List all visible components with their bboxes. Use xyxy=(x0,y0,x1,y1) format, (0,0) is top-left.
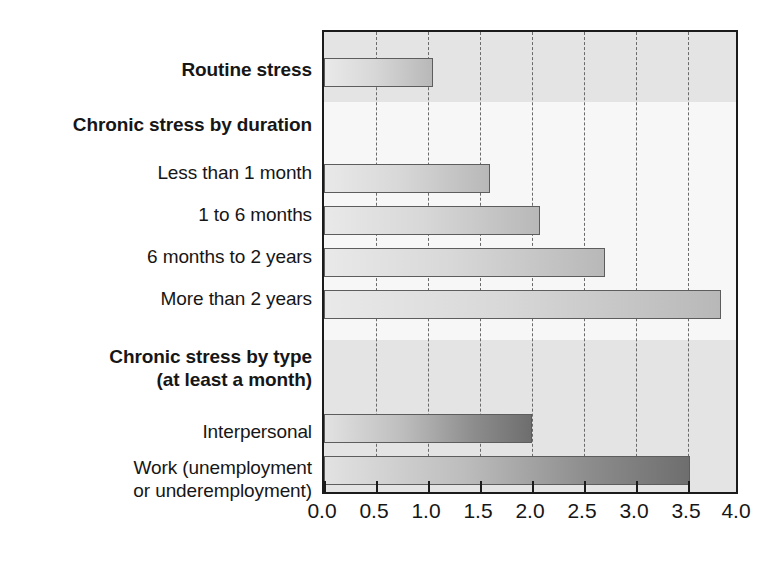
bar-routine-stress xyxy=(324,58,433,87)
xtick-label-1.5: 1.5 xyxy=(463,498,492,524)
xtick-mark-2.0 xyxy=(532,481,534,492)
xtick-label-2.5: 2.5 xyxy=(567,498,596,524)
xtick-label-0.0: 0.0 xyxy=(307,498,336,524)
xtick-label-4.0: 4.0 xyxy=(721,498,750,524)
category-label-work: Work (unemployment or underemployment) xyxy=(0,456,312,502)
category-label-interpersonal: Interpersonal xyxy=(0,420,312,443)
gridline-3.0 xyxy=(636,32,637,492)
category-label-1-to-6-months: 1 to 6 months xyxy=(0,203,312,226)
bar-less-than-1-month xyxy=(324,164,490,193)
xtick-label-0.5: 0.5 xyxy=(359,498,388,524)
xtick-label-3.5: 3.5 xyxy=(671,498,700,524)
category-label-column: Routine stress Chronic stress by duratio… xyxy=(0,0,312,573)
x-axis-tick-labels: 0.0 0.5 1.0 1.5 2.0 2.5 3.0 3.5 4.0 xyxy=(322,498,738,528)
xtick-mark-3.5 xyxy=(688,481,690,492)
group-header-chronic-by-type: Chronic stress by type (at least a month… xyxy=(0,345,312,391)
bar-interpersonal xyxy=(324,414,532,443)
category-label-less-than-1-month: Less than 1 month xyxy=(0,161,312,184)
plot-area xyxy=(322,30,738,494)
horizontal-bar-chart: Routine stress Chronic stress by duratio… xyxy=(0,0,780,573)
xtick-mark-1.0 xyxy=(428,481,430,492)
category-label-routine-stress: Routine stress xyxy=(0,58,312,81)
bar-more-than-2-years xyxy=(324,290,721,319)
group-header-chronic-by-duration: Chronic stress by duration xyxy=(0,113,312,136)
xtick-mark-2.5 xyxy=(584,481,586,492)
bar-1-to-6-months xyxy=(324,206,540,235)
xtick-mark-3.0 xyxy=(636,481,638,492)
bar-6-months-to-2-years xyxy=(324,248,605,277)
xtick-mark-0.5 xyxy=(376,481,378,492)
xtick-mark-1.5 xyxy=(480,481,482,492)
xtick-label-1.0: 1.0 xyxy=(411,498,440,524)
category-label-6-months-to-2-years: 6 months to 2 years xyxy=(0,245,312,268)
xtick-mark-0.0 xyxy=(324,481,326,492)
gridline-3.5 xyxy=(688,32,689,492)
category-label-more-than-2-years: More than 2 years xyxy=(0,287,312,310)
xtick-label-2.0: 2.0 xyxy=(515,498,544,524)
xtick-label-3.0: 3.0 xyxy=(619,498,648,524)
